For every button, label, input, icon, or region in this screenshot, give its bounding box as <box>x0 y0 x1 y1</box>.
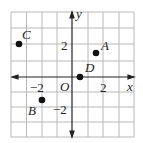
point-label-a: A <box>101 39 109 52</box>
x-axis-label: x <box>127 80 133 93</box>
point-label-b: B <box>28 104 36 117</box>
origin-label: O <box>60 80 69 93</box>
point-label-d: D <box>85 61 94 74</box>
coordinate-grid <box>0 0 143 143</box>
tick-x-2: 2 <box>100 81 107 94</box>
point-label-c: C <box>22 28 31 41</box>
y-axis-label: y <box>76 7 82 20</box>
tick-x-neg2: −2 <box>30 81 44 94</box>
tick-y-2: 2 <box>61 39 68 52</box>
tick-y-neg2: −2 <box>53 103 67 116</box>
